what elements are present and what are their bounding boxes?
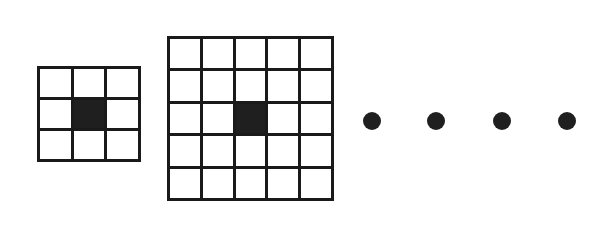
ellipsis-dot [427,112,445,130]
ellipsis-dot [558,112,576,130]
figure-canvas [0,0,602,235]
ellipsis-dots [0,0,602,235]
ellipsis-dot [493,112,511,130]
ellipsis-dot [363,112,381,130]
